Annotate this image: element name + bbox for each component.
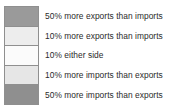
legend-label-imports-50: 50% more imports than exports [45, 90, 163, 100]
legend-label-imports-10: 10% more imports than exports [45, 70, 163, 80]
legend-label-either-side-10: 10% either side [45, 50, 103, 60]
legend-item-imports-10: 10% more imports than exports [45, 65, 191, 85]
swatch-imports-50 [5, 85, 38, 104]
legend-item-imports-50: 50% more imports than exports [45, 85, 191, 105]
legend-item-exports-50: 50% more exports than imports [45, 6, 191, 26]
swatch-either-side-10 [5, 46, 38, 66]
trade-balance-legend: 50% more exports than imports 10% more e… [0, 0, 191, 112]
legend-label-exports-50: 50% more exports than imports [45, 11, 163, 21]
swatch-imports-10 [5, 66, 38, 86]
legend-item-exports-10: 10% more exports than imports [45, 26, 191, 46]
swatch-exports-50 [5, 7, 38, 27]
legend-item-either-side-10: 10% either side [45, 46, 191, 66]
legend-label-column: 50% more exports than imports 10% more e… [45, 6, 191, 105]
legend-swatch-column [4, 6, 39, 105]
legend-label-exports-10: 10% more exports than imports [45, 31, 163, 41]
swatch-exports-10 [5, 27, 38, 47]
